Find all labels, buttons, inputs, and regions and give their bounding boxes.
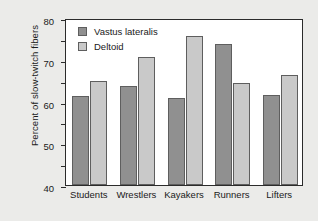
x-axis-category-label: Lifters <box>266 189 292 200</box>
y-axis-tick-mark: 60 <box>61 62 66 63</box>
legend-swatch-icon <box>78 42 87 51</box>
y-axis-tick-mark: 80 <box>61 20 66 21</box>
y-axis-tick-mark: 70 <box>61 41 66 42</box>
y-axis-tick-label: 40 <box>43 183 54 194</box>
bar <box>281 75 298 185</box>
legend-item: Deltoid <box>78 39 158 54</box>
bar-chart-figure: Percent of slow-twitch fibers 0102030405… <box>0 0 318 221</box>
y-axis-tick-label: 70 <box>43 57 54 68</box>
bar <box>186 36 203 185</box>
y-axis-tick-mark: 40 <box>61 104 66 105</box>
chart-legend: Vastus lateralisDeltoid <box>78 24 158 54</box>
bar <box>72 96 89 185</box>
x-axis-category-label: Students <box>70 189 108 200</box>
bar <box>90 81 107 185</box>
legend-label: Deltoid <box>94 41 124 52</box>
legend-item: Vastus lateralis <box>78 24 158 39</box>
y-axis-tick-label: 60 <box>43 99 54 110</box>
legend-swatch-icon <box>78 27 87 36</box>
x-axis-category-label: Kayakers <box>164 189 204 200</box>
bar <box>263 95 280 185</box>
bar <box>120 86 137 185</box>
bar <box>215 44 232 185</box>
y-axis-tick-label: 50 <box>43 141 54 152</box>
y-axis-tick-label: 80 <box>43 16 54 27</box>
y-axis-tick-mark: 0 <box>61 187 66 188</box>
y-axis-tick-mark: 50 <box>61 83 66 84</box>
y-axis-title: Percent of slow-twitch fibers <box>29 0 40 176</box>
bar <box>233 83 250 185</box>
x-axis-category-label: Wrestlers <box>116 189 156 200</box>
bar <box>168 98 185 185</box>
legend-label: Vastus lateralis <box>94 26 158 37</box>
x-axis-category-label: Runners <box>214 189 250 200</box>
y-axis-tick-mark: 10 <box>61 166 66 167</box>
y-axis-tick-mark: 20 <box>61 145 66 146</box>
bar <box>138 57 155 185</box>
plot-area: 01020304050607080 Vastus lateralisDeltoi… <box>65 19 303 186</box>
y-axis-tick-mark: 30 <box>61 124 66 125</box>
